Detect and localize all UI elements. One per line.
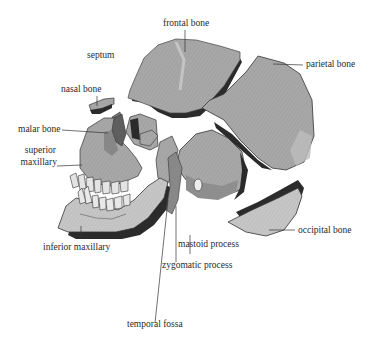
label-septum: septum: [87, 50, 114, 61]
label-superior-maxillary-line2: maxillary: [17, 157, 57, 168]
skull-diagram: frontal bone septum parietal bone nasal …: [0, 0, 376, 350]
label-occipital-bone: occipital bone: [298, 225, 352, 236]
label-nasal-bone: nasal bone: [61, 84, 101, 95]
skull-illustration: [0, 0, 376, 350]
label-zygomatic-process: zygomatic process: [162, 260, 232, 271]
zygomatic-arch-shape: [166, 152, 182, 214]
label-superior-maxillary-line1: superior: [20, 145, 56, 156]
label-inferior-maxillary: inferior maxillary: [43, 242, 110, 253]
nasal-bone-shape: [89, 98, 114, 114]
label-mastoid-process: mastoid process: [178, 239, 239, 250]
label-parietal-bone: parietal bone: [306, 59, 355, 70]
label-malar-bone: malar bone: [18, 124, 60, 135]
label-frontal-bone: frontal bone: [163, 18, 209, 29]
label-temporal-fossa: temporal fossa: [127, 319, 183, 330]
